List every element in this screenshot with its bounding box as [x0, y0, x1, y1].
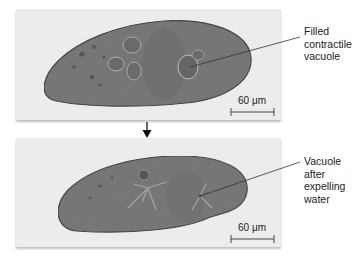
- callout-line: expelling: [304, 180, 345, 193]
- callout-line: vacuole: [304, 50, 352, 63]
- callout-line: Filled: [304, 25, 352, 38]
- scale-bar-label-bottom: 60 μm: [238, 222, 266, 233]
- callout-filled-contractile-vacuole: Filled contractile vacuole: [304, 25, 352, 63]
- scale-bar-bottom: [231, 235, 274, 243]
- callout-line: after: [304, 168, 345, 181]
- down-arrow-icon: [140, 121, 154, 139]
- scale-bar-top: [231, 108, 274, 116]
- micrograph-panel-after: 60 μm: [16, 138, 281, 247]
- micrograph-panel-before: 60 μm: [16, 9, 281, 120]
- callout-line: water: [304, 193, 345, 206]
- callout-vacuole-after-expelling-water: Vacuole after expelling water: [304, 155, 345, 205]
- scale-bar-label-top: 60 μm: [238, 95, 266, 106]
- callout-line: contractile: [304, 38, 352, 51]
- callout-line: Vacuole: [304, 155, 345, 168]
